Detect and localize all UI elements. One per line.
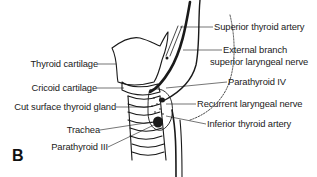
label-thyroid-cartilage: Thyroid cartilage <box>20 59 98 69</box>
label-trachea: Trachea <box>40 125 100 135</box>
panel-letter: B <box>12 147 24 165</box>
label-inferior-thyroid-artery: Inferior thyroid artery <box>207 119 291 129</box>
label-superior-thyroid-artery: Superior thyroid artery <box>214 22 304 32</box>
label-cricoid-cartilage: Cricoid cartilage <box>20 83 97 93</box>
label-superior-laryngeal-nerve: superior laryngeal nerve <box>210 57 308 67</box>
label-recurrent-laryngeal-nerve: Recurrent laryngeal nerve <box>197 99 302 109</box>
label-cut-surface-thyroid-gland: Cut surface thyroid gland <box>0 102 116 112</box>
label-external-branch: External branch <box>223 45 287 55</box>
label-parathyroid-iv: Parathyroid IV <box>228 77 286 87</box>
label-parathyroid-iii: Parathyroid III <box>30 142 108 152</box>
thyroid-anatomy-diagram: Thyroid cartilage Cricoid cartilage Cut … <box>0 0 317 177</box>
